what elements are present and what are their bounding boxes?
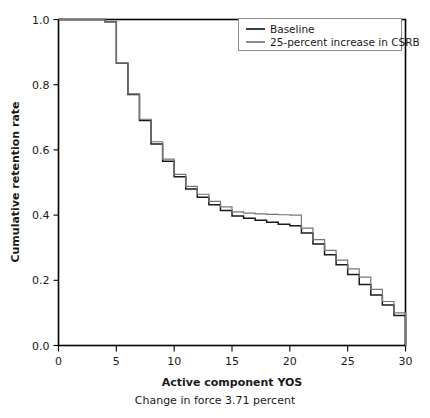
x-tick-label: 30 — [399, 355, 413, 368]
legend-label-baseline: Baseline — [270, 23, 315, 35]
x-tick-label: 15 — [225, 355, 239, 368]
legend-label-csrb: 25-percent increase in CSRB — [270, 36, 420, 48]
chart-canvas: 0.00.20.40.60.81.0 051015202530 Baseline… — [0, 0, 430, 418]
y-tick-label: 0.8 — [32, 79, 50, 92]
y-axis-title: Cumulative retention rate — [9, 101, 22, 262]
y-tick-label: 0.2 — [32, 274, 50, 287]
y-tick-label: 1.0 — [32, 14, 50, 27]
x-tick-label: 0 — [55, 355, 62, 368]
chart-caption: Change in force 3.71 percent — [135, 394, 296, 407]
x-tick-label: 10 — [167, 355, 181, 368]
y-tick-label: 0.0 — [32, 340, 50, 353]
x-tick-label: 25 — [341, 355, 355, 368]
chart-background — [0, 0, 430, 418]
retention-chart-figure: 0.00.20.40.60.81.0 051015202530 Baseline… — [0, 0, 430, 418]
y-tick-label: 0.4 — [32, 209, 50, 222]
x-tick-label: 5 — [113, 355, 120, 368]
legend: Baseline 25-percent increase in CSRB — [239, 19, 420, 51]
x-axis-title: Active component YOS — [162, 376, 303, 389]
y-tick-label: 0.6 — [32, 144, 50, 157]
x-tick-label: 20 — [283, 355, 297, 368]
